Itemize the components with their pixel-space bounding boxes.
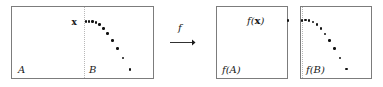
region-label-fb: f(B) bbox=[306, 65, 325, 75]
sequence-point bbox=[102, 27, 104, 29]
source-point-label-x: x bbox=[72, 18, 77, 27]
sequence-point bbox=[328, 39, 330, 41]
sequence-point bbox=[320, 27, 322, 29]
sequence-point bbox=[345, 68, 347, 70]
map-arrow-icon bbox=[170, 38, 196, 47]
sequence-point bbox=[95, 21, 97, 23]
function-label-f: f bbox=[178, 23, 182, 33]
source-rectangle-panel bbox=[11, 6, 154, 79]
sequence-point bbox=[333, 47, 335, 49]
region-label-b: B bbox=[89, 65, 96, 75]
sequence-point bbox=[111, 39, 113, 41]
region-label-fa: f(A) bbox=[222, 65, 241, 75]
sequence-point bbox=[98, 23, 100, 25]
target-region-divider bbox=[302, 7, 303, 78]
sequence-point bbox=[129, 68, 131, 70]
sequence-point bbox=[91, 20, 93, 22]
sequence-point bbox=[287, 19, 289, 21]
target-point-label-fx: f(x) bbox=[247, 16, 264, 26]
function-mapping-diagram: x A B f f(x) f(A) f(B) bbox=[0, 0, 383, 87]
source-region-divider bbox=[84, 7, 85, 78]
region-label-a: A bbox=[18, 65, 25, 75]
sequence-point bbox=[316, 23, 318, 25]
sequence-point bbox=[116, 47, 118, 49]
sequence-point bbox=[85, 20, 87, 22]
sequence-point bbox=[106, 32, 108, 34]
